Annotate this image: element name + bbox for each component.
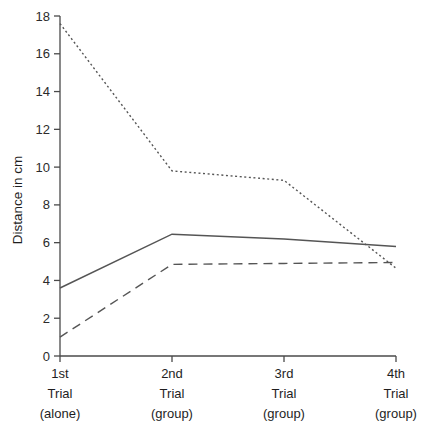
x-category-label: (group) [151,406,193,421]
y-tick-label: 10 [36,160,50,175]
series-solid-series [60,234,396,288]
x-category-label: 4th [387,366,405,381]
x-category-label: Trial [272,386,297,401]
y-tick-label: 2 [43,311,50,326]
x-category-label: (group) [375,406,417,421]
y-tick-label: 16 [36,46,50,61]
chart-canvas: 024681012141618 1stTrial(alone)2ndTrial(… [0,0,423,425]
x-category-label: (group) [263,406,305,421]
series-dashed-series [60,263,396,338]
series-group [60,24,396,338]
y-tick-label: 0 [43,349,50,364]
x-category-label: 1st [51,366,69,381]
y-tick-label: 6 [43,235,50,250]
y-tick-label: 12 [36,122,50,137]
x-category-label: (alone) [40,406,80,421]
y-axis-ticks: 024681012141618 [36,9,60,364]
x-category-label: 2nd [161,366,183,381]
y-tick-label: 18 [36,9,50,24]
x-category-label: Trial [384,386,409,401]
series-dotted-series [60,24,396,269]
y-axis-title: Distance in cm [10,156,25,245]
x-axis-category-labels: 1stTrial(alone)2ndTrial(group)3rdTrial(g… [40,366,417,421]
line-chart: 024681012141618 1stTrial(alone)2ndTrial(… [0,0,423,425]
x-category-label: Trial [160,386,185,401]
y-tick-label: 4 [43,273,50,288]
x-category-label: 3rd [275,366,294,381]
y-tick-label: 14 [36,84,50,99]
x-category-label: Trial [48,386,73,401]
x-axis-ticks [60,356,396,362]
y-tick-label: 8 [43,197,50,212]
